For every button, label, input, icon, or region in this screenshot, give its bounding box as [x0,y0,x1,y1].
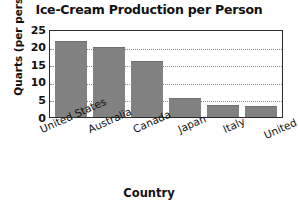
y-tick-label-5: 5 [22,95,46,106]
bar-slot [204,31,242,117]
y-tick-label-25: 25 [22,25,46,36]
chart-title: Ice-Cream Production per Person [0,2,298,17]
y-tick-label-20: 20 [22,42,46,53]
bar [207,105,239,117]
y-tick-label-10: 10 [22,77,46,88]
y-axis-tick-labels: 2520151050 [22,24,46,124]
y-tick-label-15: 15 [22,60,46,71]
bar [245,106,277,117]
bar-chart-figure: Ice-Cream Production per Person Quarts (… [0,0,298,217]
bar [131,61,163,117]
bar-slot [128,31,166,117]
bar-slot [166,31,204,117]
x-tick-label-italy: Italy [221,115,247,135]
x-axis-tick-labels: United StatesAustraliaCanadaJapanItalyUn… [0,118,298,180]
bar-slot [242,31,280,117]
x-axis-title: Country [0,186,298,200]
